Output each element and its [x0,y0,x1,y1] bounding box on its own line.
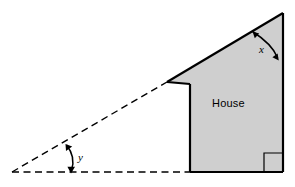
roof-extension-dashed-line [12,82,167,172]
geometry-canvas [0,0,295,187]
house-label: House [212,98,245,109]
angle-x-label: x [259,44,264,55]
angle-y-label: y [78,152,83,163]
angle-y-arrowhead-diagonal [66,144,73,151]
house-shape [167,13,283,172]
geometry-figure: House x y [0,0,295,187]
